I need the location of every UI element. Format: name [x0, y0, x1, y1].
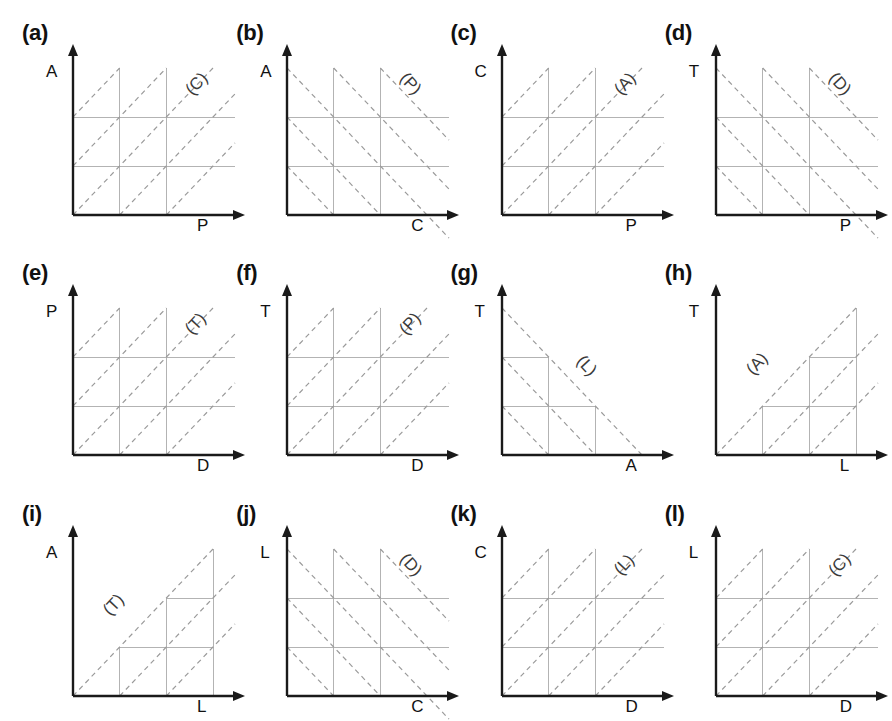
- grid-lines-e: [73, 308, 235, 455]
- panel-e: (e)PD(T): [0, 240, 214, 480]
- diagonal-lines-k: [502, 549, 664, 696]
- grid-lines-c: [502, 68, 664, 215]
- axes-l: [711, 525, 888, 701]
- diagonal-lines-l: [716, 549, 878, 696]
- diagonal-lines-d: [716, 68, 878, 238]
- grid-lines-h: [762, 308, 855, 455]
- diagonal-lines-f: [287, 308, 449, 455]
- panel-h: (h)TL(A): [643, 240, 857, 480]
- panel-tag-g: (g): [451, 260, 478, 286]
- plot-area-l: (C): [716, 549, 856, 696]
- grid-lines-f: [287, 308, 449, 455]
- diagonal-lines-c: [502, 68, 664, 215]
- panel-k: (k)CD(L): [429, 481, 643, 721]
- panel-tag-a: (a): [22, 20, 48, 46]
- panel-l: (l)LD(C): [643, 481, 857, 721]
- plot-area-b: (P): [287, 68, 427, 215]
- plot-area-d: (D): [716, 68, 856, 215]
- panel-d: (d)TP(D): [643, 0, 857, 240]
- panel-tag-k: (k): [451, 501, 477, 527]
- plot-area-e: (T): [73, 308, 213, 455]
- diagonal-lines-b: [287, 68, 449, 238]
- grid-lines-l: [716, 549, 878, 696]
- panel-b: (b)AC(P): [214, 0, 428, 240]
- axes-h: [711, 284, 888, 460]
- plot-graphic-h: [698, 298, 892, 485]
- plot-area-a: (C): [73, 68, 213, 215]
- panel-f: (f)TD(P): [214, 240, 428, 480]
- grid-lines-d: [716, 68, 878, 215]
- panel-tag-f: (f): [236, 260, 257, 286]
- diagonal-lines-h: [716, 308, 878, 455]
- plot-graphic-d: [698, 58, 892, 245]
- diagonal-lines-j: [287, 549, 449, 719]
- diagonal-lines-i: [73, 549, 235, 696]
- grid-lines-k: [502, 549, 664, 696]
- panel-g: (g)TA(L): [429, 240, 643, 480]
- diagonal-lines-e: [73, 308, 235, 455]
- plot-area-g: (L): [502, 308, 642, 455]
- panel-j: (j)LC(D): [214, 481, 428, 721]
- panel-i: (i)AL(T): [0, 481, 214, 721]
- panel-tag-e: (e): [22, 260, 48, 286]
- grid-lines-i: [120, 549, 213, 696]
- axes-d: [711, 44, 888, 220]
- panel-tag-l: (l): [665, 501, 685, 527]
- plot-area-h: (A): [716, 308, 856, 455]
- diagonal-lines-a: [73, 68, 235, 215]
- diagonal-lines-g: [502, 308, 642, 455]
- panel-a: (a)AP(C): [0, 0, 214, 240]
- grid-lines-b: [287, 68, 449, 215]
- plot-area-j: (D): [287, 549, 427, 696]
- grid-lines-a: [73, 68, 235, 215]
- plot-area-k: (L): [502, 549, 642, 696]
- grid-lines-j: [287, 549, 449, 696]
- plot-area-f: (P): [287, 308, 427, 455]
- panel-tag-b: (b): [236, 20, 263, 46]
- panel-tag-c: (c): [451, 20, 477, 46]
- plot-area-i: (T): [73, 549, 213, 696]
- panel-tag-d: (d): [665, 20, 692, 46]
- panel-tag-i: (i): [22, 501, 42, 527]
- panel-tag-j: (j): [236, 501, 256, 527]
- plot-graphic-l: [698, 539, 892, 721]
- panel-tag-h: (h): [665, 260, 692, 286]
- plot-area-c: (A): [502, 68, 642, 215]
- panel-c: (c)CP(A): [429, 0, 643, 240]
